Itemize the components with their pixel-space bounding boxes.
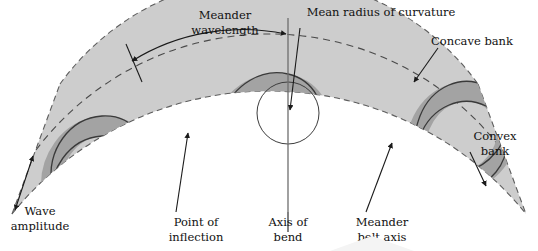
point-of-inflection-leader bbox=[176, 133, 188, 212]
meander-geometry-diagram: Meander wavelength Mean radius of curvat… bbox=[0, 0, 538, 251]
label-point-of-inflection: Point of inflection bbox=[169, 215, 224, 244]
svg-text:Point of: Point of bbox=[174, 215, 219, 229]
svg-text:bend: bend bbox=[274, 230, 304, 244]
svg-text:Convex: Convex bbox=[474, 129, 517, 143]
label-mean-radius: Mean radius of curvature bbox=[307, 5, 456, 19]
meander-belt bbox=[12, 0, 526, 214]
label-wave-amplitude: Wave amplitude bbox=[11, 204, 70, 233]
label-concave-bank: Concave bank bbox=[431, 34, 514, 48]
svg-text:Meander: Meander bbox=[199, 8, 252, 22]
meander-belt-area bbox=[12, 0, 526, 214]
meander-belt-axis-leader bbox=[366, 143, 392, 212]
svg-text:wavelength: wavelength bbox=[191, 23, 259, 37]
label-meander-wavelength: Meander wavelength bbox=[191, 8, 259, 37]
svg-text:bank: bank bbox=[481, 144, 511, 158]
label-convex-bank: Convex bank bbox=[474, 129, 517, 158]
svg-text:inflection: inflection bbox=[169, 230, 224, 244]
svg-text:Axis of: Axis of bbox=[267, 215, 308, 229]
label-axis-of-bend: Axis of bend bbox=[267, 215, 308, 244]
svg-text:Meander: Meander bbox=[356, 215, 409, 229]
svg-text:amplitude: amplitude bbox=[11, 219, 70, 233]
svg-text:Wave: Wave bbox=[25, 204, 56, 218]
